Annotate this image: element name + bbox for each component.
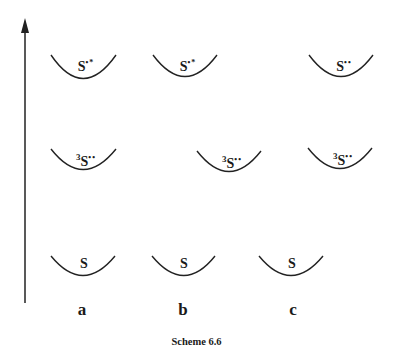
state-label-b-triplet: 3S•• [222, 152, 242, 171]
state-label-c-excited: S•• [336, 56, 351, 74]
state-superscript: •* [85, 58, 94, 67]
column-label-a: a [78, 300, 87, 320]
state-superscript: •* [187, 58, 196, 67]
state-label-c-triplet: 3S•• [333, 149, 353, 168]
arrowhead-icon [21, 18, 29, 33]
state-label-a-triplet: 3S•• [76, 150, 96, 169]
energy-diagram [0, 0, 393, 360]
state-label-b-excited: S•* [180, 56, 197, 74]
state-symbol: S [180, 59, 188, 74]
state-label-a-ground: S [80, 257, 88, 271]
state-symbol: S [80, 256, 88, 271]
column-label-b: b [178, 300, 187, 320]
state-symbol: S [288, 256, 296, 271]
column-label-c: c [289, 300, 297, 320]
scheme-caption: Scheme 6.6 [0, 336, 393, 347]
state-superscript: •• [344, 58, 352, 67]
state-label-c-ground: S [288, 257, 296, 271]
state-label-a-excited: S•* [78, 56, 95, 74]
state-symbol: S [336, 59, 344, 74]
state-superscript: •• [345, 152, 353, 161]
state-superscript: •• [88, 153, 96, 162]
state-symbol: S [180, 256, 188, 271]
state-superscript: •• [234, 155, 242, 164]
state-label-b-ground: S [180, 257, 188, 271]
state-symbol: S [78, 59, 86, 74]
